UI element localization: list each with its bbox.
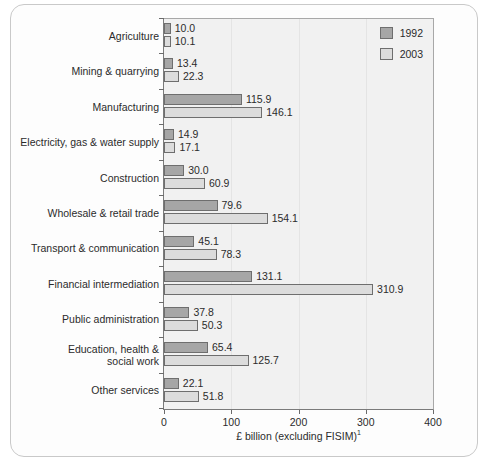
bar-2003: [164, 213, 268, 224]
x-axis-tick-label: 100: [222, 416, 240, 428]
bar-value-label: 115.9: [246, 94, 272, 105]
bar-value-label: 51.8: [203, 391, 223, 402]
figure-panel: 10.010.113.422.3115.9146.114.917.130.060…: [10, 4, 478, 457]
x-axis-tick: [299, 410, 300, 414]
x-axis-title: £ billion (excluding FISIM)1: [163, 429, 434, 442]
bar-value-label: 37.8: [193, 307, 213, 318]
y-axis-tick: [159, 160, 164, 161]
y-axis-tick: [159, 89, 164, 90]
bar-value-label: 22.1: [183, 378, 203, 389]
legend-label: 1992: [400, 27, 423, 39]
x-axis-tick-label: 300: [357, 416, 375, 428]
bar-value-label: 13.4: [177, 58, 197, 69]
y-axis-tick: [159, 408, 164, 409]
bar-1992: [164, 271, 252, 282]
bar-value-label: 10.1: [175, 36, 195, 47]
bar-value-label: 30.0: [188, 165, 208, 176]
chart-legend: 19922003: [380, 27, 423, 69]
category-label: Construction: [14, 172, 159, 184]
bar-1992: [164, 129, 174, 140]
bar-value-label: 154.1: [272, 213, 298, 224]
x-axis-tick: [366, 410, 367, 414]
bar-group: 37.850.3: [164, 307, 433, 342]
bar-1992: [164, 23, 171, 34]
bar-1992: [164, 307, 189, 318]
x-axis-tick: [433, 410, 434, 414]
x-axis-tick-label: 200: [290, 416, 308, 428]
bar-2003: [164, 391, 199, 402]
x-axis: 0100200300400: [163, 410, 434, 411]
x-axis-title-footnote: 1: [357, 429, 361, 436]
y-axis-tick: [159, 124, 164, 125]
bar-2003: [164, 71, 179, 82]
bar-value-label: 60.9: [209, 178, 229, 189]
bar-value-label: 10.0: [175, 23, 195, 34]
bar-value-label: 125.7: [253, 355, 279, 366]
category-label: Financial intermediation: [14, 278, 159, 290]
y-axis-tick: [159, 195, 164, 196]
legend-item: 1992: [380, 27, 423, 39]
legend-swatch: [380, 48, 393, 60]
y-axis-tick: [159, 18, 164, 19]
bar-group: 22.151.8: [164, 378, 433, 413]
bar-value-label: 45.1: [198, 236, 218, 247]
bar-value-label: 65.4: [212, 342, 232, 353]
bar-value-label: 146.1: [266, 107, 292, 118]
plot-area: 10.010.113.422.3115.9146.114.917.130.060…: [163, 18, 434, 410]
bar-group: 45.178.3: [164, 236, 433, 271]
x-axis-title-text: £ billion (excluding FISIM): [236, 430, 357, 442]
x-axis-tick-label: 400: [424, 416, 442, 428]
bar-2003: [164, 178, 205, 189]
legend-swatch: [380, 27, 393, 39]
bar-2003: [164, 142, 175, 153]
y-axis-tick: [159, 302, 164, 303]
y-axis-tick: [159, 231, 164, 232]
bar-1992: [164, 58, 173, 69]
bar-value-label: 78.3: [221, 249, 241, 260]
category-label: Mining & quarrying: [14, 65, 159, 77]
y-axis-tick: [159, 266, 164, 267]
category-label: Electricity, gas & water supply: [14, 136, 159, 148]
bar-group: 131.1310.9: [164, 271, 433, 306]
category-label: Other services: [14, 384, 159, 396]
bar-group: 79.6154.1: [164, 200, 433, 235]
bar-2003: [164, 249, 217, 260]
bar-1992: [164, 236, 194, 247]
legend-label: 2003: [400, 48, 423, 60]
bar-1992: [164, 165, 184, 176]
y-axis-tick: [159, 373, 164, 374]
category-label: Agriculture: [14, 30, 159, 42]
x-axis-tick: [164, 410, 165, 414]
bar-group: 115.9146.1: [164, 94, 433, 129]
bar-2003: [164, 320, 198, 331]
bar-value-label: 14.9: [178, 129, 198, 140]
bar-group: 14.917.1: [164, 129, 433, 164]
category-label: Education, health &social work: [14, 343, 159, 367]
bar-2003: [164, 107, 262, 118]
category-label: Transport & communication: [14, 242, 159, 254]
bar-value-label: 131.1: [256, 271, 282, 282]
y-axis-tick: [159, 337, 164, 338]
y-axis-tick: [159, 53, 164, 54]
bar-1992: [164, 342, 208, 353]
bar-value-label: 310.9: [377, 284, 403, 295]
bar-1992: [164, 378, 179, 389]
bar-group: 30.060.9: [164, 165, 433, 200]
bar-2003: [164, 355, 249, 366]
category-label: Wholesale & retail trade: [14, 207, 159, 219]
bar-group: 65.4125.7: [164, 342, 433, 377]
bar-value-label: 17.1: [179, 142, 199, 153]
category-label: Public administration: [14, 313, 159, 325]
bar-1992: [164, 200, 218, 211]
x-axis-tick: [231, 410, 232, 414]
category-label: Manufacturing: [14, 101, 159, 113]
bar-2003: [164, 284, 373, 295]
legend-item: 2003: [380, 48, 423, 60]
bar-value-label: 22.3: [183, 71, 203, 82]
bar-1992: [164, 94, 242, 105]
bar-value-label: 79.6: [222, 200, 242, 211]
bar-value-label: 50.3: [202, 320, 222, 331]
x-axis-tick-label: 0: [161, 416, 167, 428]
bar-2003: [164, 36, 171, 47]
